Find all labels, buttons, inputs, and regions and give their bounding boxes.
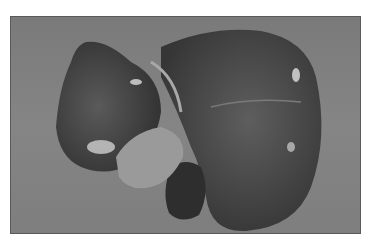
- specimen-photo: [10, 16, 361, 234]
- liver-illustration: [11, 17, 361, 234]
